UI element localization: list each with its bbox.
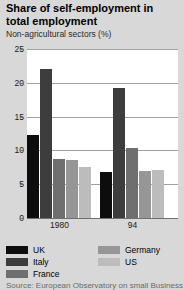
bar-germany-1980 (66, 160, 78, 218)
y-axis-tick (20, 150, 24, 151)
legend-swatch-italy (6, 258, 28, 266)
y-axis-tick (20, 117, 24, 118)
legend-swatch-germany (98, 246, 120, 254)
legend-label: US (125, 257, 137, 267)
axis-baseline (27, 218, 178, 219)
y-axis-tick (20, 83, 24, 84)
bar-uk-94 (100, 172, 112, 218)
plot-area (27, 44, 178, 218)
bar-italy-94 (113, 88, 125, 218)
legend-label: France (33, 269, 59, 279)
chart-source: Source: European Observatory on small Bu… (6, 281, 184, 290)
y-axis-tick (20, 49, 24, 50)
bar-france-94 (126, 148, 138, 218)
chart-legend: UKItalyFrance GermanyUS (6, 245, 184, 281)
chart-subtitle: Non-agricultural sectors (%) (6, 29, 178, 39)
bar-france-1980 (53, 159, 65, 218)
bar-group-container (27, 44, 178, 218)
bar-us-94 (152, 170, 164, 218)
y-axis: 0510152025 (0, 44, 24, 222)
y-axis-tick (20, 218, 24, 219)
bar-italy-1980 (40, 69, 52, 218)
legend-swatch-uk (6, 246, 28, 254)
chart-title: Share of self-employment in total employ… (6, 2, 178, 27)
bar-uk-1980 (27, 135, 39, 218)
legend-swatch-france (6, 270, 28, 278)
legend-label: Germany (125, 245, 160, 255)
y-axis-tick (20, 184, 24, 185)
legend-swatch-us (98, 258, 120, 266)
legend-label: UK (33, 245, 45, 255)
bar-us-1980 (79, 167, 91, 218)
bar-germany-94 (139, 171, 151, 218)
x-axis-label-94: 94 (90, 221, 175, 230)
legend-label: Italy (33, 257, 49, 267)
